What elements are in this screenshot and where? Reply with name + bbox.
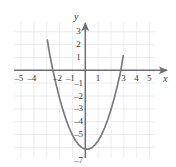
y-tick-label: –7 xyxy=(74,156,83,165)
y-tick-label: –4 xyxy=(74,117,83,126)
y-tick-label: –1 xyxy=(74,79,83,88)
x-tick-label: –4 xyxy=(27,74,36,83)
y-tick-label: 1 xyxy=(76,53,80,62)
axes xyxy=(14,23,167,158)
x-tick-label: 4 xyxy=(134,74,138,83)
coordinate-plane xyxy=(0,0,176,167)
x-tick-label: 3 xyxy=(121,74,125,83)
y-tick-label: 3 xyxy=(76,27,80,36)
y-tick-label: –3 xyxy=(74,104,83,113)
grid-lines xyxy=(14,22,155,159)
graph-figure: –5–4–2–11345321–1–2–3–4–5–7 x y xyxy=(0,0,176,167)
x-axis-label: x xyxy=(163,74,167,84)
y-tick-label: –2 xyxy=(74,92,83,101)
x-tick-label: 5 xyxy=(147,74,151,83)
x-tick-label: –5 xyxy=(15,74,24,83)
y-axis-label: y xyxy=(74,12,78,22)
y-tick-label: –5 xyxy=(74,130,83,139)
y-tick-label: 2 xyxy=(76,40,80,49)
x-tick-label: 1 xyxy=(96,74,100,83)
x-tick-label: –2 xyxy=(53,74,62,83)
